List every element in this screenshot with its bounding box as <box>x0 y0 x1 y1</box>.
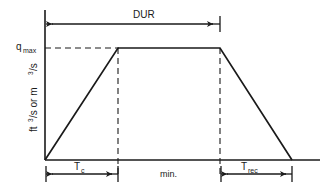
dimension-dur: DUR <box>46 9 220 32</box>
y-axis-title-tail: /s <box>28 63 39 71</box>
hydrograph-svg: DUR T c T rec q max ft <box>0 0 329 190</box>
hydrograph-figure: DUR T c T rec q max ft <box>0 0 329 190</box>
qmax-label: q <box>16 41 22 52</box>
dur-label: DUR <box>133 9 155 20</box>
trec-label: T <box>241 161 247 172</box>
axis-group <box>45 10 320 160</box>
qmax-axis-label: q max <box>16 41 37 54</box>
x-axis-caption: min. <box>160 169 177 179</box>
tc-label-subscript: c <box>81 167 85 174</box>
y-axis-title-ft: ft <box>28 126 39 132</box>
y-axis-title-middle: /s or m <box>28 87 39 118</box>
trec-label-subscript: rec <box>248 167 258 174</box>
qmax-label-subscript: max <box>23 47 37 54</box>
dimension-tc: T c <box>46 161 118 182</box>
dimension-trec: T rec <box>221 161 292 182</box>
guide-lines <box>45 48 220 176</box>
y-axis-title: ft 3 /s or m 3 /s <box>27 63 39 132</box>
tc-label: T <box>74 161 80 172</box>
hydrograph-curve <box>45 48 292 160</box>
